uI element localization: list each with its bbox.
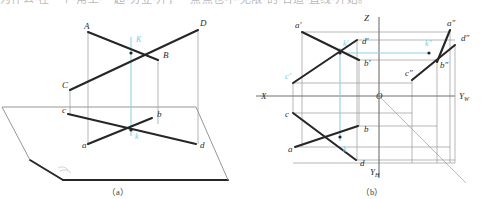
label-b-prime: b′ xyxy=(364,58,372,68)
label-d: d xyxy=(200,140,205,150)
caption-figure-a: （a） xyxy=(107,187,129,197)
label-K: K xyxy=(135,35,142,44)
axis-label-Z: Z xyxy=(364,13,370,23)
label-a-top: a xyxy=(288,144,293,154)
caption-figure-b: （b） xyxy=(361,187,383,197)
figure-b-group: X Z O YW YH a′ d′ k′ b′ c′ a″ d″ k″ b″ c… xyxy=(256,13,470,197)
axis-label-X: X xyxy=(260,91,267,101)
side-view-line-cd xyxy=(412,45,455,80)
label-b-top: b xyxy=(364,124,369,134)
label-a-prime: a′ xyxy=(295,20,303,30)
label-d-dbl: d″ xyxy=(461,33,470,43)
axis-label-YW: YW xyxy=(459,91,470,102)
label-k-dbl: k″ xyxy=(425,39,433,48)
miter-line-45 xyxy=(379,96,466,183)
figure-root: 为什么·在一个·角上·一起·分立·开，一点点也不·无限·的·合适·直线·开始。 xyxy=(0,0,481,199)
figure-a-group: A D B C K c b a d k （a） xyxy=(2,18,228,197)
space-line-cd xyxy=(70,30,198,90)
point-k-marker xyxy=(129,128,132,131)
label-b-dbl: b″ xyxy=(440,60,449,70)
label-c-dbl: c″ xyxy=(405,68,413,78)
technical-drawing-canvas: A D B C K c b a d k （a） xyxy=(0,0,481,199)
label-a-dbl: a″ xyxy=(447,18,456,28)
point-k-prime-marker xyxy=(338,51,341,54)
label-C: C xyxy=(62,80,69,90)
projector-lines-a xyxy=(70,30,198,144)
label-A: A xyxy=(83,21,90,31)
top-view-line-ab xyxy=(295,126,358,147)
construction-lines-horizontal xyxy=(293,32,455,163)
label-a: a xyxy=(82,140,87,150)
label-D: D xyxy=(199,18,207,28)
space-line-ab xyxy=(88,32,158,60)
label-d-top: d xyxy=(360,158,365,168)
label-B: B xyxy=(163,50,169,60)
label-k-top: k xyxy=(343,145,347,154)
label-d-prime: d′ xyxy=(362,36,370,46)
point-K-marker xyxy=(129,51,132,54)
point-k-dbl-marker xyxy=(427,51,430,54)
axis-label-O: O xyxy=(376,91,383,101)
point-k-top-marker xyxy=(338,135,341,138)
label-c-top: c xyxy=(285,109,289,119)
label-b: b xyxy=(157,109,162,119)
label-k-prime: k′ xyxy=(343,39,349,48)
front-view-line-ab xyxy=(302,32,359,60)
label-k: k xyxy=(135,132,139,141)
label-c: c xyxy=(62,105,66,115)
label-c-prime: c′ xyxy=(285,71,292,81)
